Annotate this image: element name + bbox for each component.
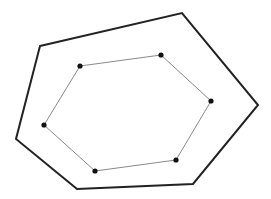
vertex-dot xyxy=(158,52,163,57)
outer-hexagon xyxy=(16,13,258,189)
vertex-dot xyxy=(173,157,178,162)
vertex-dot xyxy=(41,122,46,127)
vertex-dot xyxy=(208,98,213,103)
nested-hexagons-diagram xyxy=(0,0,271,199)
vertex-dot xyxy=(77,63,82,68)
inner-hexagon xyxy=(44,55,211,171)
inner-vertex-dots xyxy=(41,52,213,173)
vertex-dot xyxy=(92,168,97,173)
